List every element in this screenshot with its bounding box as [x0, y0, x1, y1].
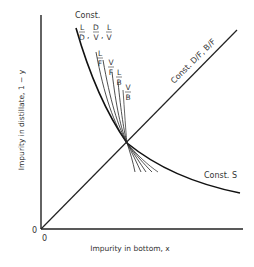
svg-text:L: L: [117, 68, 122, 77]
svg-text:,: ,: [101, 31, 103, 40]
y-axis-label: Impurity in distillate, 1 − y: [17, 69, 26, 170]
svg-text:,: ,: [87, 31, 89, 40]
svg-text:B: B: [116, 78, 121, 87]
x-axis-label: Impurity in bottom, x: [90, 244, 170, 253]
y-origin-label: 0: [32, 226, 37, 235]
svg-text:F: F: [109, 68, 113, 77]
svg-text:V: V: [125, 83, 131, 92]
svg-text:L: L: [98, 49, 103, 58]
const-df-bf-label: Const. D/F, B/F: [169, 37, 218, 86]
svg-text:F: F: [98, 59, 102, 68]
const-header-label: Const.: [75, 11, 100, 20]
svg-text:V: V: [93, 33, 99, 42]
svg-text:L: L: [80, 23, 85, 32]
svg-text:L: L: [107, 23, 112, 32]
ratio-group-labels: L D , D V , L V: [79, 23, 112, 42]
const-df-bf-line: [41, 30, 237, 229]
svg-text:V: V: [106, 33, 112, 42]
distillation-impurity-diagram: Const. L D , D V , L V L F V F L B V B C…: [0, 0, 254, 267]
svg-text:B: B: [125, 93, 130, 102]
const-s-label: Const. S: [204, 171, 237, 180]
x-origin-label: 0: [42, 234, 47, 243]
svg-text:D: D: [93, 23, 99, 32]
svg-text:D: D: [79, 33, 85, 42]
thin-curve-labels: L F V F L B V B: [97, 49, 131, 102]
svg-text:V: V: [108, 58, 114, 67]
const-s-curve: [127, 143, 240, 193]
